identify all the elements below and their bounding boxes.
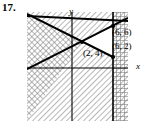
shaded-regions bbox=[27, 4, 140, 121]
vertex-label-lower-right: (6, 2) bbox=[112, 41, 132, 51]
exercise-figure: 17. bbox=[0, 0, 150, 121]
x-axis-label: x bbox=[136, 61, 140, 71]
y-axis-label: y bbox=[69, 6, 73, 16]
feasible-region-plot bbox=[0, 0, 150, 121]
vertex-dot-interior bbox=[80, 40, 84, 44]
vertex-label-interior: (2, 4) bbox=[83, 48, 103, 58]
vertex-dot-lower-right bbox=[111, 55, 115, 59]
vertex-label-upper-right: (6, 6) bbox=[112, 27, 132, 37]
